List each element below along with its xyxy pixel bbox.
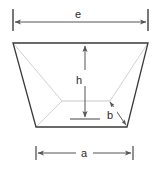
dimension-b-group: b — [104, 102, 126, 125]
inner-edge-top-right — [110, 43, 148, 101]
inner-edge-bottom-left — [36, 101, 62, 127]
dimension-b-label: b — [107, 109, 113, 121]
dimension-h-group: h — [70, 46, 100, 119]
dimension-a-group: a — [36, 145, 133, 160]
frustum-dimension-diagram: e h b — [0, 0, 160, 169]
figure-container: e h b — [0, 0, 160, 169]
dimension-a-label: a — [81, 147, 88, 159]
dimension-e-group: e — [13, 6, 148, 31]
dimension-e-label: e — [75, 8, 81, 20]
dimension-h-label: h — [76, 74, 82, 86]
